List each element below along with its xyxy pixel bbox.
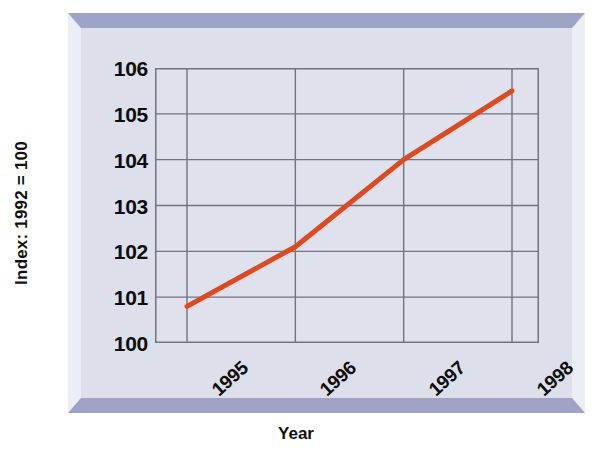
y-axis-title: Index: 1992 = 100 <box>0 13 44 413</box>
y-tick-label-105: 105 <box>82 103 148 124</box>
y-tick-label-100: 100 <box>82 333 148 354</box>
frame-bevel-top <box>68 13 585 28</box>
y-tick-label-101: 101 <box>82 287 148 308</box>
y-axis-title-text: Index: 1992 = 100 <box>12 141 32 285</box>
line-chart-svg <box>155 68 539 343</box>
x-tick-label-1995: 1995 <box>208 357 253 401</box>
y-tick-label-102: 102 <box>82 241 148 262</box>
x-axis-tick-labels: 1995199619971998 <box>155 343 539 413</box>
x-axis-title-text: Year <box>278 424 314 443</box>
y-tick-label-103: 103 <box>82 195 148 216</box>
x-tick-label-1996: 1996 <box>316 357 361 401</box>
x-axis-title: Year <box>0 424 592 444</box>
y-tick-label-104: 104 <box>82 149 148 170</box>
plot-area <box>155 68 539 343</box>
x-tick-label-1997: 1997 <box>424 357 469 401</box>
y-tick-label-106: 106 <box>82 58 148 79</box>
frame-bevel-right <box>572 13 585 413</box>
y-axis-tick-labels: 106105104103102101100 <box>80 68 148 343</box>
